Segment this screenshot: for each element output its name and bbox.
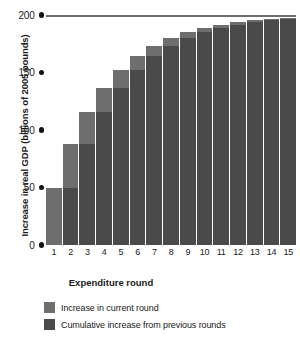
x-tick-label: 9: [180, 247, 196, 257]
x-tick-label: 14: [264, 247, 280, 257]
plot-area: [46, 15, 296, 245]
legend-swatch-icon: [44, 302, 55, 313]
x-tick-label: 12: [230, 247, 246, 257]
bar-column: [163, 15, 179, 245]
bar-segment-current-round: [79, 112, 95, 144]
bar-column: [230, 15, 246, 245]
x-tick-label: 5: [113, 247, 129, 257]
legend-item-current-round: Increase in current round: [44, 300, 296, 315]
y-tick-dot-icon: [39, 12, 45, 18]
y-tick-label: 0: [29, 240, 34, 251]
x-tick-label: 10: [197, 247, 213, 257]
bar-column: [180, 15, 196, 245]
bar-column: [130, 15, 146, 245]
y-tick-dot-icon: [39, 70, 45, 76]
bar-segment-cumulative: [264, 20, 280, 245]
bar-column: [197, 15, 213, 245]
bar-segment-current-round: [163, 38, 179, 46]
bar-column: [113, 15, 129, 245]
bar-column: [280, 15, 296, 245]
bar-segment-current-round: [113, 70, 129, 88]
x-axis-ticks: 123456789101112131415: [46, 247, 296, 257]
y-tick-100: 100: [18, 124, 44, 136]
x-tick-label: 1: [46, 247, 62, 257]
bar-series-container: [46, 15, 296, 245]
bar-segment-cumulative: [63, 188, 79, 246]
x-tick-label: 8: [163, 247, 179, 257]
y-tick-dot-icon: [39, 242, 45, 248]
y-tick-dot-icon: [39, 127, 45, 133]
bar-column: [247, 15, 263, 245]
legend-label: Increase in current round: [61, 303, 159, 313]
bar-segment-current-round: [63, 144, 79, 187]
legend-swatch-icon: [44, 319, 55, 330]
bar-segment-cumulative: [113, 88, 129, 245]
bar-segment-current-round: [146, 46, 162, 56]
x-tick-label: 6: [130, 247, 146, 257]
x-tick-label: 4: [96, 247, 112, 257]
x-tick-label: 3: [79, 247, 95, 257]
x-axis-title: Expenditure round: [46, 277, 176, 288]
bar-segment-current-round: [46, 188, 62, 246]
y-tick-label: 150: [18, 67, 34, 78]
bar-column: [63, 15, 79, 245]
legend-item-cumulative: Cumulative increase from previous rounds: [44, 317, 296, 332]
bar-segment-cumulative: [280, 19, 296, 245]
bar-segment-cumulative: [146, 56, 162, 245]
x-tick-label: 2: [63, 247, 79, 257]
bar-segment-cumulative: [163, 46, 179, 245]
bar-segment-cumulative: [180, 38, 196, 245]
bar-segment-cumulative: [79, 144, 95, 245]
bar-column: [213, 15, 229, 245]
y-tick-label: 50: [24, 182, 35, 193]
bar-column: [146, 15, 162, 245]
bar-segment-cumulative: [213, 28, 229, 245]
x-tick-label: 15: [280, 247, 296, 257]
bar-column: [79, 15, 95, 245]
bar-segment-cumulative: [130, 70, 146, 245]
y-tick-150: 150: [18, 67, 44, 79]
bar-column: [46, 15, 62, 245]
chart-legend: Increase in current round Cumulative inc…: [44, 300, 296, 334]
y-tick-0: 0: [29, 239, 44, 251]
y-axis-ticks: 200 150 100 50 0: [0, 0, 44, 339]
x-tick-label: 13: [247, 247, 263, 257]
bar-segment-cumulative: [197, 32, 213, 245]
y-tick-label: 200: [18, 10, 34, 21]
x-tick-label: 11: [213, 247, 229, 257]
legend-label: Cumulative increase from previous rounds: [61, 320, 226, 330]
bar-column: [96, 15, 112, 245]
x-tick-label: 7: [146, 247, 162, 257]
y-tick-200: 200: [18, 9, 44, 21]
expenditure-multiplier-chart: Increase in real GDP (billions of 2005 p…: [0, 0, 300, 339]
bar-segment-cumulative: [247, 22, 263, 245]
bar-segment-cumulative: [96, 112, 112, 245]
bar-column: [264, 15, 280, 245]
y-tick-50: 50: [24, 182, 44, 194]
y-tick-dot-icon: [39, 185, 45, 191]
bar-segment-cumulative: [230, 25, 246, 245]
bar-segment-current-round: [130, 56, 146, 70]
bar-segment-current-round: [96, 88, 112, 112]
y-tick-label: 100: [18, 125, 34, 136]
